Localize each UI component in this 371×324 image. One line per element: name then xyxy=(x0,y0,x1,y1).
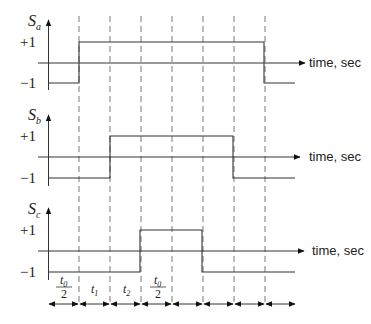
sc-time-label: time, sec xyxy=(312,243,365,258)
interval-label-t2: t2 xyxy=(123,282,130,298)
sc-plus-one-label: +1 xyxy=(20,222,36,238)
sa-label: Sa xyxy=(28,12,41,32)
signal-sa-plot: Sa +1 −1 time, sec xyxy=(20,12,362,91)
svg-text:2: 2 xyxy=(155,287,161,301)
sa-plus-one-label: +1 xyxy=(20,34,36,50)
interval-label-t1: t1 xyxy=(91,282,98,298)
interval-labels: t0 2 t1 t2 t0 2 xyxy=(56,273,166,301)
signal-sb-plot: Sb +1 −1 time, sec xyxy=(20,106,362,186)
timing-diagram: Sa +1 −1 time, sec Sb +1 −1 time, sec Sc… xyxy=(0,0,371,324)
sc-minus-one-label: −1 xyxy=(20,264,36,280)
sc-label: Sc xyxy=(28,200,41,220)
sa-time-label: time, sec xyxy=(309,55,362,70)
sa-minus-one-label: −1 xyxy=(20,75,36,91)
interval-label-t0-half-1: t0 2 xyxy=(56,273,72,301)
sb-plus-one-label: +1 xyxy=(20,128,36,144)
sb-minus-one-label: −1 xyxy=(20,170,36,186)
interval-label-t0-half-2: t0 2 xyxy=(150,273,166,301)
signal-sc-plot: Sc +1 −1 time, sec xyxy=(20,200,365,280)
svg-text:2: 2 xyxy=(61,287,67,301)
time-boundary-lines xyxy=(79,16,265,304)
sb-label: Sb xyxy=(28,106,41,126)
sb-time-label: time, sec xyxy=(309,149,362,164)
